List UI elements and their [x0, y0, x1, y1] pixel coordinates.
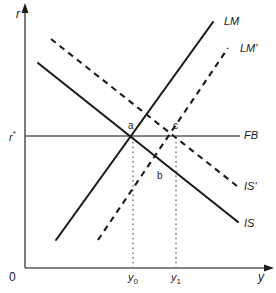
point-label-a: a: [128, 121, 134, 131]
is-curve-label: IS: [244, 218, 254, 229]
r-star-tick-label: r*: [9, 130, 16, 143]
point-label-b: b: [157, 171, 163, 181]
x-axis-label: y: [258, 271, 264, 283]
origin-label: 0: [9, 271, 16, 283]
lm-curve: [56, 22, 213, 240]
is-curve: [38, 63, 238, 222]
y1-subscript: 1: [177, 277, 181, 286]
axes-group: [22, 3, 275, 272]
y0-tick-label: y0: [128, 272, 138, 286]
r-star-asterisk: *: [13, 129, 16, 138]
is-lm-fb-diagram: r y 0 r* y0 y1 LM LM' FB IS' IS a b c: [0, 0, 276, 293]
is-prime-curve-label: IS': [244, 181, 257, 192]
point-label-c: c: [173, 121, 178, 131]
y0-subscript: 0: [134, 277, 138, 286]
lm-curve-label: LM: [224, 16, 239, 27]
y-axis-label: r: [16, 8, 20, 20]
lm-prime-curve-label: LM': [240, 43, 257, 54]
diagram-canvas: [0, 0, 276, 293]
is-prime-curve: [51, 39, 237, 186]
lm-prime-curve: [98, 48, 228, 240]
fb-curve-label: FB: [244, 130, 258, 141]
y1-tick-label: y1: [171, 272, 181, 286]
y-axis-arrowhead: [22, 3, 29, 13]
x-axis-arrowhead: [264, 265, 274, 272]
